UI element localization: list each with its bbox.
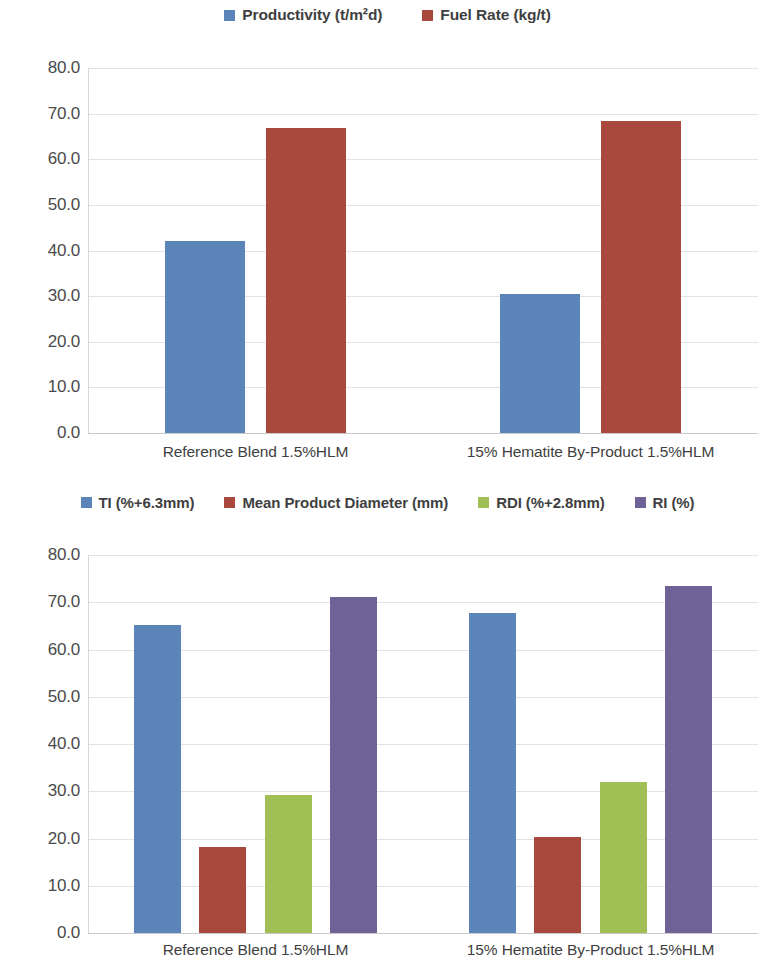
legend-item: TI (%+6.3mm)	[81, 494, 195, 511]
y-axis-line	[88, 68, 89, 433]
x-axis-category-label: Reference Blend 1.5%HLM	[88, 443, 423, 461]
gridline	[88, 555, 758, 556]
chart-1-legend: Productivity (t/m²d)Fuel Rate (kg/t)	[0, 0, 775, 30]
chart-2-container: TI (%+6.3mm)Mean Product Diameter (mm)RD…	[0, 487, 775, 972]
bar	[534, 837, 581, 933]
axis-baseline	[88, 933, 758, 934]
legend-swatch-icon	[635, 497, 646, 508]
legend-label: RI (%)	[653, 494, 695, 511]
axis-baseline	[88, 433, 758, 434]
legend-swatch-icon	[81, 497, 92, 508]
legend-swatch-icon	[224, 497, 235, 508]
legend-label: TI (%+6.3mm)	[99, 494, 195, 511]
gridline	[88, 839, 758, 840]
y-axis-tick-label: 40.0	[10, 241, 80, 261]
gridline	[88, 602, 758, 603]
legend-item: RI (%)	[635, 494, 695, 511]
gridline	[88, 744, 758, 745]
legend-item: Fuel Rate (kg/t)	[422, 6, 550, 24]
y-axis-tick-label: 80.0	[10, 545, 80, 565]
gridline	[88, 650, 758, 651]
legend-label: Mean Product Diameter (mm)	[242, 494, 448, 511]
y-axis-tick-label: 50.0	[10, 195, 80, 215]
y-axis-tick-label: 0.0	[10, 423, 80, 443]
y-axis-tick-label: 30.0	[10, 286, 80, 306]
chart-1-plot: 0.010.020.030.040.050.060.070.080.0Refer…	[0, 30, 775, 480]
bar	[601, 121, 681, 433]
x-axis-category-label: 15% Hematite By-Product 1.5%HLM	[423, 443, 758, 461]
legend-item: Productivity (t/m²d)	[224, 6, 382, 24]
legend-label: Fuel Rate (kg/t)	[440, 6, 550, 24]
legend-label: RDI (%+2.8mm)	[496, 494, 604, 511]
gridline	[88, 886, 758, 887]
y-axis-tick-label: 70.0	[10, 592, 80, 612]
y-axis-tick-label: 20.0	[10, 332, 80, 352]
y-axis-line	[88, 555, 89, 933]
y-axis-tick-label: 70.0	[10, 104, 80, 124]
chart-2-plot: 0.010.020.030.040.050.060.070.080.0Refer…	[0, 517, 775, 967]
legend-swatch-icon	[478, 497, 489, 508]
chart-2-legend: TI (%+6.3mm)Mean Product Diameter (mm)RD…	[0, 487, 775, 517]
y-axis-tick-label: 60.0	[10, 149, 80, 169]
y-axis-tick-label: 60.0	[10, 640, 80, 660]
bar	[469, 613, 516, 933]
y-axis-tick-label: 10.0	[10, 377, 80, 397]
y-axis-tick-label: 30.0	[10, 781, 80, 801]
bar	[199, 847, 246, 933]
legend-item: Mean Product Diameter (mm)	[224, 494, 448, 511]
x-axis-category-label: 15% Hematite By-Product 1.5%HLM	[423, 941, 758, 959]
bar	[134, 625, 181, 933]
y-axis-tick-label: 0.0	[10, 923, 80, 943]
y-axis-tick-label: 20.0	[10, 829, 80, 849]
legend-label: Productivity (t/m²d)	[242, 6, 382, 24]
y-axis-tick-label: 40.0	[10, 734, 80, 754]
chart-1-container: Productivity (t/m²d)Fuel Rate (kg/t) 0.0…	[0, 0, 775, 487]
y-axis-tick-label: 50.0	[10, 687, 80, 707]
gridline	[88, 68, 758, 69]
legend-swatch-icon	[422, 10, 433, 21]
gridline	[88, 791, 758, 792]
x-axis-category-label: Reference Blend 1.5%HLM	[88, 941, 423, 959]
bar	[266, 128, 346, 433]
bar	[665, 586, 712, 933]
gridline	[88, 114, 758, 115]
bar	[600, 782, 647, 933]
bar	[330, 597, 377, 933]
y-axis-tick-label: 80.0	[10, 58, 80, 78]
bar	[265, 795, 312, 933]
bar	[500, 294, 580, 433]
bar	[165, 241, 245, 433]
gridline	[88, 697, 758, 698]
y-axis-tick-label: 10.0	[10, 876, 80, 896]
legend-item: RDI (%+2.8mm)	[478, 494, 604, 511]
legend-swatch-icon	[224, 10, 235, 21]
